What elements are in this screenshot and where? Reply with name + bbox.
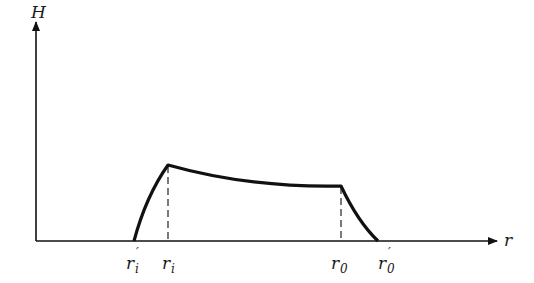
svg-text:i: i [135,262,139,276]
tick-label-r0: r 0 [331,253,348,276]
y-axis-label: H [30,2,47,22]
svg-text:′: ′ [388,246,391,260]
tick-label-ri-prime: r ′ i [126,246,139,276]
x-axis-label: r [504,230,513,250]
svg-text:′: ′ [136,246,139,260]
svg-text:0: 0 [340,262,348,276]
field-profile-diagram: H r r ′ i r i r 0 r ′ 0 [0,0,534,283]
svg-text:r: r [378,253,387,273]
tick-label-ri: r i [162,253,175,276]
svg-text:r: r [331,253,340,273]
svg-text:r: r [162,253,171,273]
svg-text:0: 0 [387,262,395,276]
svg-text:i: i [171,262,175,276]
tick-label-r0-prime: r ′ 0 [378,246,395,276]
svg-text:r: r [126,253,135,273]
